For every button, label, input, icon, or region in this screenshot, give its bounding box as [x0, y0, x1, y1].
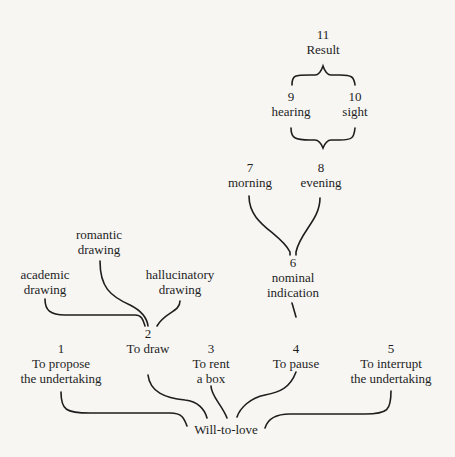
- link-6-4: [292, 303, 296, 317]
- node-5-line1: To interrupt: [350, 356, 431, 371]
- node-4-number: 4: [273, 341, 319, 356]
- node-hearing-label: hearing: [272, 104, 311, 119]
- academic-line1: academic: [20, 267, 69, 282]
- link-3-root: [211, 386, 227, 418]
- connector-lines: [0, 0, 455, 457]
- node-nominal-line2: indication: [267, 285, 319, 300]
- node-nominal-line1: nominal: [267, 270, 319, 285]
- link-academic-2: [45, 299, 145, 326]
- node-to-draw: 2 To draw: [127, 326, 170, 356]
- romantic-line1: romantic: [76, 227, 122, 242]
- node-evening-label: evening: [300, 175, 341, 190]
- hallucinatory-line1: hallucinatory: [146, 267, 215, 282]
- node-1-number: 1: [20, 341, 101, 356]
- node-result-number: 11: [306, 27, 339, 42]
- node-nominal-number: 6: [267, 255, 319, 270]
- node-5-number: 5: [350, 341, 431, 356]
- node-propose-undertaking: 1 To propose the undertaking: [20, 341, 101, 386]
- node-evening: 8 evening: [300, 160, 341, 190]
- node-result-label: Result: [306, 42, 339, 57]
- node-morning-label: morning: [228, 175, 272, 190]
- node-will-to-love: Will-to-love: [194, 422, 258, 437]
- node-to-pause: 4 To pause: [273, 341, 319, 371]
- node-3-number: 3: [193, 341, 230, 356]
- hallucinatory-line2: drawing: [146, 282, 215, 297]
- link-morning-6: [249, 196, 290, 255]
- node-3-line1: To rent: [193, 356, 230, 371]
- node-sight: 10 sight: [342, 89, 367, 119]
- node-2-line1: To draw: [127, 341, 170, 356]
- node-morning-number: 7: [228, 160, 272, 175]
- node-morning: 7 morning: [228, 160, 272, 190]
- link-evening-6: [296, 198, 320, 255]
- node-hearing: 9 hearing: [272, 89, 311, 119]
- node-4-line1: To pause: [273, 356, 319, 371]
- node-hallucinatory-drawing: hallucinatory drawing: [146, 267, 215, 297]
- root-label: Will-to-love: [194, 422, 258, 437]
- node-5-line2: the undertaking: [350, 371, 431, 386]
- link-4-root: [237, 372, 296, 417]
- node-2-number: 2: [127, 326, 170, 341]
- node-3-line2: a box: [193, 371, 230, 386]
- node-1-line2: the undertaking: [20, 371, 101, 386]
- node-interrupt-undertaking: 5 To interrupt the undertaking: [350, 341, 431, 386]
- brace-result: [292, 66, 355, 85]
- node-1-line1: To propose: [20, 356, 101, 371]
- node-result: 11 Result: [306, 27, 339, 57]
- node-sight-label: sight: [342, 104, 367, 119]
- brace-lower: [291, 128, 355, 148]
- node-academic-drawing: academic drawing: [20, 267, 69, 297]
- academic-line2: drawing: [20, 282, 69, 297]
- link-hallucinatory-2: [157, 301, 180, 326]
- node-evening-number: 8: [300, 160, 341, 175]
- node-sight-number: 10: [342, 89, 367, 104]
- link-5-root: [265, 391, 391, 428]
- node-hearing-number: 9: [272, 89, 311, 104]
- node-nominal-indication: 6 nominal indication: [267, 255, 319, 300]
- node-rent-box: 3 To rent a box: [193, 341, 230, 386]
- node-romantic-drawing: romantic drawing: [76, 227, 122, 257]
- romantic-line2: drawing: [76, 242, 122, 257]
